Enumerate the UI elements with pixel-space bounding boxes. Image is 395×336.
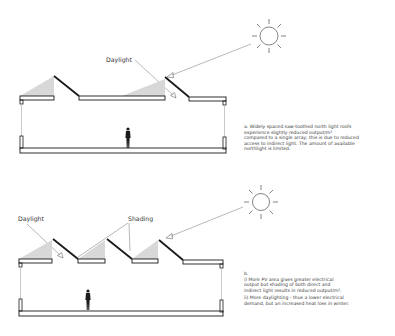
sun-icon-b bbox=[244, 185, 278, 219]
caption-a-line: northlight is limited. bbox=[244, 146, 394, 152]
sunlight-ray-b bbox=[166, 207, 243, 239]
caption-b-line: indirect light results in reduced output… bbox=[244, 288, 394, 294]
caption-b-line: demand, but an increased heat loss in wi… bbox=[244, 301, 394, 307]
shading-wedge bbox=[78, 240, 105, 259]
person-icon-a bbox=[125, 127, 130, 148]
shading-wedge bbox=[19, 240, 52, 259]
shading-wedge bbox=[122, 79, 165, 96]
person-icon-b bbox=[85, 289, 90, 310]
walls-a bbox=[20, 104, 226, 149]
floor-b bbox=[19, 311, 223, 316]
floor-a bbox=[20, 148, 226, 153]
sun-icon-a bbox=[252, 19, 286, 53]
caption-b: b. i) More PV area gives greater electri… bbox=[244, 271, 394, 306]
caption-a: a. Widely spaced saw-toothed north light… bbox=[244, 124, 394, 152]
daylight-label-a: Daylight bbox=[106, 56, 133, 64]
shading-wedge bbox=[132, 240, 158, 259]
daylight-label-b: Daylight bbox=[18, 215, 45, 223]
sunlight-ray-a bbox=[167, 44, 251, 78]
diagram-b: Daylight Shading bbox=[18, 185, 278, 316]
walls-b bbox=[19, 267, 223, 312]
shading-label: Shading bbox=[128, 215, 153, 223]
shading-wedge bbox=[20, 76, 54, 96]
